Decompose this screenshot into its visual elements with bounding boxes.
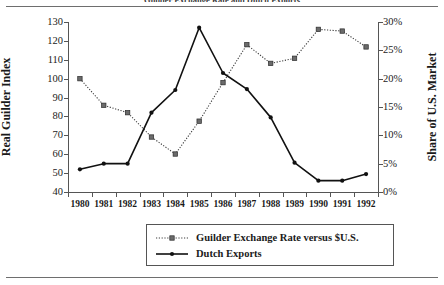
- guilder-exchange-rate-marker: [316, 27, 320, 31]
- dutch-exports-marker: [292, 161, 296, 165]
- plot-area: 405060708090100110120130 0%5%10%15%20%25…: [68, 22, 378, 192]
- left-tick-label: 70: [53, 130, 64, 141]
- x-tick: [211, 192, 212, 197]
- right-tick: [378, 50, 383, 51]
- right-tick: [378, 79, 383, 80]
- guilder-exchange-rate-marker: [268, 61, 272, 65]
- x-tick-label: 1990: [309, 200, 328, 210]
- guilder-exchange-rate-line: [80, 29, 366, 154]
- x-tick: [92, 192, 93, 197]
- left-tick-label: 120: [47, 36, 63, 47]
- guilder-exchange-rate-marker: [197, 119, 201, 123]
- guilder-exchange-rate-marker: [102, 103, 106, 107]
- guilder-exchange-rate-marker: [173, 152, 177, 156]
- right-tick-label: 25%: [383, 45, 402, 56]
- x-tick-label: 1984: [166, 200, 185, 210]
- x-tick-label: 1981: [94, 200, 113, 210]
- top-rule: [6, 6, 438, 7]
- x-tick: [187, 192, 188, 197]
- left-tick-label: 90: [53, 92, 64, 103]
- legend-swatch-dotted-square-icon: [155, 232, 189, 244]
- dutch-exports-marker: [173, 88, 177, 92]
- right-tick: [378, 107, 383, 108]
- left-tick-label: 130: [47, 17, 63, 28]
- right-tick-label: 10%: [383, 130, 402, 141]
- guilder-exchange-rate-marker: [364, 45, 368, 49]
- dutch-exports-marker: [269, 115, 273, 119]
- x-tick-label: 1988: [261, 200, 280, 210]
- dutch-exports-marker: [340, 179, 344, 183]
- dutch-exports-marker: [102, 162, 106, 166]
- dutch-exports-line: [80, 28, 366, 181]
- right-tick-label: 5%: [383, 158, 397, 169]
- x-tick-label: 1992: [357, 200, 376, 210]
- bottom-rule: [6, 277, 438, 278]
- dutch-exports-marker: [316, 179, 320, 183]
- legend-label-guilder: Guilder Exchange Rate versus $U.S.: [196, 233, 359, 244]
- x-tick: [235, 192, 236, 197]
- legend-item-guilder: Guilder Exchange Rate versus $U.S.: [155, 231, 359, 245]
- figure-container: Guilder Exchange Rate and Dutch Exports …: [0, 0, 444, 285]
- right-tick-label: 15%: [383, 102, 402, 113]
- legend-marker: [170, 236, 174, 240]
- x-tick-label: 1991: [333, 200, 352, 210]
- series-plot: [68, 22, 378, 192]
- x-tick: [283, 192, 284, 197]
- x-tick: [68, 192, 69, 197]
- x-tick-label: 1985: [190, 200, 209, 210]
- dutch-exports-marker: [149, 111, 153, 115]
- guilder-exchange-rate-marker: [292, 56, 296, 60]
- figure-title: Guilder Exchange Rate and Dutch Exports: [0, 0, 444, 2]
- x-tick-label: 1987: [237, 200, 256, 210]
- left-tick-label: 100: [47, 73, 63, 84]
- legend-label-exports: Dutch Exports: [196, 249, 262, 260]
- x-tick-label: 1982: [118, 200, 137, 210]
- guilder-exchange-rate-marker: [78, 76, 82, 80]
- x-tick: [259, 192, 260, 197]
- x-tick-label: 1986: [214, 200, 233, 210]
- x-tick: [378, 192, 379, 197]
- right-axis-title: Share of U.S. Market: [425, 53, 440, 162]
- guilder-exchange-rate-marker: [245, 42, 249, 46]
- dutch-exports-marker: [197, 26, 201, 30]
- guilder-exchange-rate-marker: [149, 135, 153, 139]
- left-tick-label: 80: [53, 111, 64, 122]
- right-tick-label: 0%: [383, 187, 397, 198]
- right-tick-label: 30%: [383, 17, 402, 28]
- legend-marker: [170, 252, 174, 256]
- legend-swatch-solid-circle-icon: [155, 248, 189, 260]
- legend-item-exports: Dutch Exports: [155, 247, 262, 261]
- right-tick: [378, 135, 383, 136]
- dutch-exports-marker: [364, 172, 368, 176]
- guilder-exchange-rate-marker: [125, 110, 129, 114]
- x-tick: [163, 192, 164, 197]
- right-tick: [378, 164, 383, 165]
- dutch-exports-marker: [245, 87, 249, 91]
- dutch-exports-marker: [221, 71, 225, 75]
- x-axis-line: [68, 192, 378, 193]
- guilder-exchange-rate-marker: [221, 80, 225, 84]
- x-tick-label: 1983: [142, 200, 161, 210]
- left-tick-label: 60: [53, 149, 64, 160]
- right-tick: [378, 22, 383, 23]
- left-axis-title: Real Guilder Index: [0, 58, 14, 156]
- x-tick: [140, 192, 141, 197]
- x-tick-label: 1980: [70, 200, 89, 210]
- x-tick: [306, 192, 307, 197]
- x-tick: [354, 192, 355, 197]
- x-tick: [116, 192, 117, 197]
- x-tick-label: 1989: [285, 200, 304, 210]
- dutch-exports-marker: [78, 167, 82, 171]
- x-tick: [330, 192, 331, 197]
- legend-box: Guilder Exchange Rate versus $U.S. Dutch…: [146, 224, 394, 266]
- left-tick-label: 110: [48, 55, 63, 66]
- left-tick-label: 40: [53, 187, 64, 198]
- guilder-exchange-rate-marker: [340, 29, 344, 33]
- right-tick-label: 20%: [383, 73, 402, 84]
- dutch-exports-marker: [126, 162, 130, 166]
- left-tick-label: 50: [53, 168, 64, 179]
